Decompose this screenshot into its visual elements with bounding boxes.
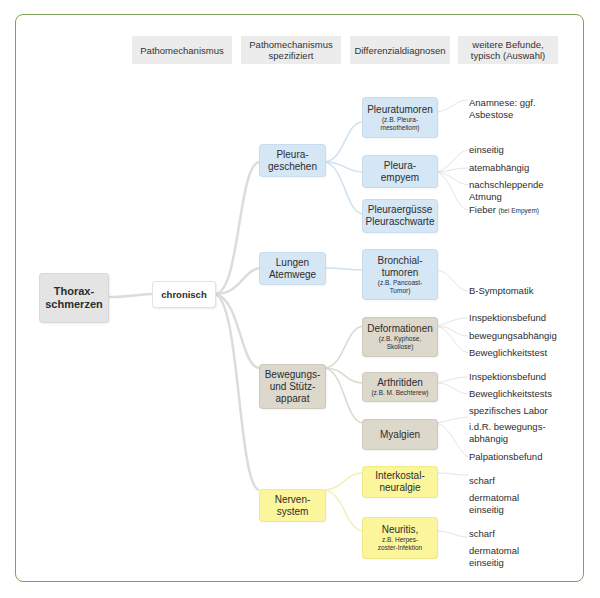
node-chronisch[interactable]: chronisch (153, 282, 215, 307)
diagnosis-label: Interkostal- neuralgie (375, 470, 424, 494)
finding-bewegungsabhaengig-2: i.d.R. bewegungs- abhängig (469, 421, 546, 445)
node-neuritis[interactable]: Neuritis, z.B. Herpes- zoster-Infektion (363, 518, 437, 558)
finding-inspektionsbefund-1: Inspektionsbefund (469, 312, 546, 324)
column-header-differenzialdiagnosen: Differenzialdiagnosen (350, 36, 450, 64)
finding-atemabhaengig: atemabhängig (469, 162, 529, 174)
finding-bewegungsabhaengig: bewegungsabhängig (469, 330, 557, 342)
diagnosis-label: Pleuratumoren (367, 104, 433, 116)
finding-fieber: Fieber (bei Empyem) (469, 204, 539, 217)
diagnosis-sub: (z.B. Kyphose, Skoliose) (379, 335, 421, 351)
column-header-spezifiziert: Pathomechanismus spezifiziert (241, 36, 341, 64)
finding-inspektionsbefund-2: Inspektionsbefund (469, 371, 546, 383)
diagnosis-sub: z.B. Herpes- zoster-Infektion (378, 536, 422, 552)
node-nervensystem[interactable]: Nerven- system (260, 490, 325, 521)
finding-sub: (bei Empyem) (499, 207, 539, 214)
node-lungen-atemwege[interactable]: Lungen Atemwege (260, 253, 325, 284)
finding-dermatomal-2: dermatomal einseitig (469, 545, 519, 569)
column-header-pathomechanismus: Pathomechanismus (132, 36, 232, 64)
finding-palpationsbefund: Palpationsbefund (469, 451, 542, 463)
finding-beweglichkeitstests: Beweglichkeitstests (469, 388, 552, 400)
root-node-thoraxschmerzen[interactable]: Thorax- schmerzen (40, 274, 108, 322)
finding-nachschleppende-atmung: nachschleppende Atmung (469, 179, 543, 203)
finding-einseitig: einseitig (469, 144, 504, 156)
finding-anamnese: Anamnese: ggf. Asbestose (469, 97, 536, 121)
finding-b-symptomatik: B-Symptomatik (469, 285, 533, 297)
node-bronchialtumoren[interactable]: Bronchial- tumoren (z.B. Pancoast- Tumor… (363, 250, 437, 299)
finding-spezifisches-labor: spezifisches Labor (469, 405, 548, 417)
finding-scharf-1: scharf (469, 475, 495, 487)
diagnosis-label: Myalgien (380, 429, 420, 441)
node-deformationen[interactable]: Deformationen (z.B. Kyphose, Skoliose) (363, 318, 437, 356)
node-pleuratumoren[interactable]: Pleuratumoren (z.B. Pleura- mesotheliom) (363, 98, 437, 137)
finding-beweglichkeitstest: Beweglichkeitstest (469, 347, 547, 359)
finding-text: Fieber (469, 204, 496, 215)
node-arthritiden[interactable]: Arthritiden (z.B. M. Bechterew) (363, 373, 437, 401)
finding-scharf-2: scharf (469, 528, 495, 540)
node-pleurageschehen[interactable]: Pleura- geschehen (260, 145, 325, 176)
diagnosis-label: Neuritis, (382, 524, 419, 536)
diagnosis-label: Arthritiden (377, 377, 423, 389)
node-myalgien[interactable]: Myalgien (363, 420, 437, 449)
diagnosis-sub: (z.B. Pancoast- Tumor) (378, 279, 422, 295)
diagnosis-sub: (z.B. Pleura- mesotheliom) (380, 116, 419, 132)
diagnosis-label: Pleuraergüsse Pleuraschwarte (366, 204, 435, 228)
node-interkostalneuralgie[interactable]: Interkostal- neuralgie (363, 467, 437, 497)
diagnosis-label: Deformationen (367, 323, 433, 335)
diagnosis-sub: (z.B. M. Bechterew) (371, 389, 428, 397)
node-pleuraergusse[interactable]: Pleuraergüsse Pleuraschwarte (363, 200, 437, 232)
diagnosis-label: Pleura- empyem (381, 160, 419, 184)
node-bewegungsapparat[interactable]: Bewegungs- und Stütz- apparat (260, 365, 325, 408)
node-pleuraempyem[interactable]: Pleura- empyem (363, 156, 437, 187)
column-header-befunde: weitere Befunde, typisch (Auswahl) (458, 36, 558, 64)
diagnosis-label: Bronchial- tumoren (377, 255, 422, 279)
finding-dermatomal-1: dermatomal einseitig (469, 492, 519, 516)
